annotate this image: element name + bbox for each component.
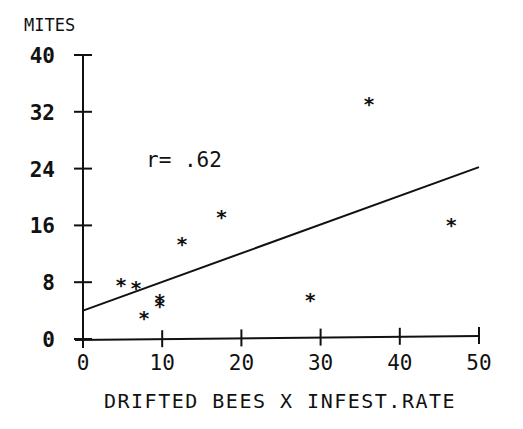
x-axis-label: DRIFTED BEES X INFEST.RATE — [104, 389, 456, 413]
data-point-asterisk-icon: * — [216, 205, 228, 229]
correlation-annotation: r= .62 — [146, 148, 222, 172]
y-axis-label: MITES — [24, 15, 75, 35]
axes — [74, 55, 479, 348]
regression-line — [83, 167, 479, 310]
x-tick-label: 40 — [387, 351, 412, 375]
data-point-asterisk-icon: * — [138, 306, 150, 330]
data-points: ********** — [115, 92, 457, 330]
x-tick-label: 50 — [466, 351, 491, 375]
tick-labels: 081624324001020304050 — [30, 44, 492, 375]
x-axis — [75, 336, 479, 340]
y-tick-label: 0 — [42, 328, 55, 352]
data-point-asterisk-icon: * — [115, 273, 127, 297]
data-point-asterisk-icon: * — [304, 288, 316, 312]
y-tick-label: 8 — [42, 271, 55, 295]
x-tick-label: 20 — [229, 351, 254, 375]
scatter-chart: 081624324001020304050 ********** MITES r… — [0, 0, 523, 429]
y-tick-label: 32 — [30, 101, 55, 125]
x-tick-label: 0 — [77, 351, 90, 375]
x-tick-label: 30 — [308, 351, 333, 375]
y-tick-label: 24 — [30, 158, 55, 182]
data-point-asterisk-icon: * — [176, 232, 188, 256]
data-point-asterisk-icon: * — [363, 92, 375, 116]
y-tick-label: 40 — [30, 44, 55, 68]
data-point-asterisk-icon: * — [445, 213, 457, 237]
x-tick-label: 10 — [150, 351, 175, 375]
data-point-asterisk-icon: * — [154, 294, 166, 318]
data-point-asterisk-icon: * — [130, 276, 142, 300]
y-tick-label: 16 — [30, 214, 55, 238]
